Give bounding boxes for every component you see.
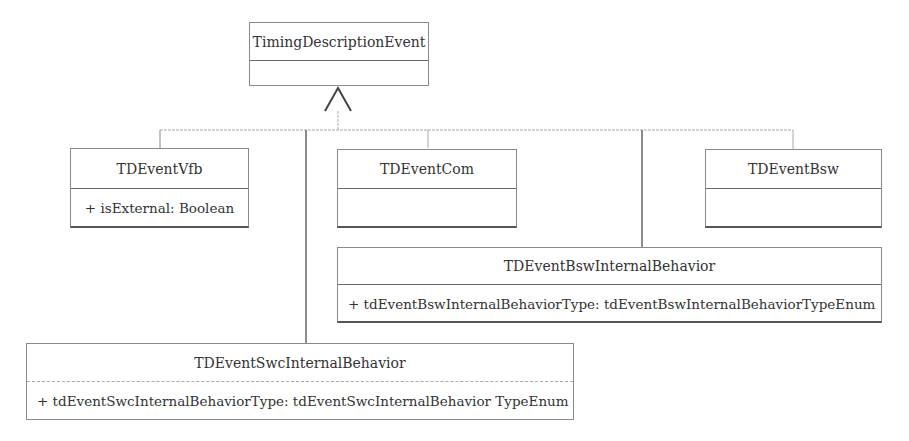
class-name: TDEventCom [338,150,516,189]
class-name: TDEventSwcInternalBehavior [27,344,573,382]
class-name: TDEventBswInternalBehavior [338,248,881,285]
generalization-arrowhead-icon [325,88,351,111]
class-name: TDEventVfb [71,149,248,189]
class-timing-description-event[interactable]: TimingDescriptionEvent [249,22,429,86]
class-attribute: + tdEventSwcInternalBehaviorType: tdEven… [27,382,573,419]
class-attributes-empty [250,61,428,85]
class-attributes-empty [338,189,516,227]
class-td-event-vfb[interactable]: TDEventVfb + isExternal: Boolean [70,148,249,228]
class-td-event-swc-internal-behavior[interactable]: TDEventSwcInternalBehavior + tdEventSwcI… [26,343,574,420]
class-attributes-empty [706,189,881,227]
uml-diagram: TimingDescriptionEvent TDEventVfb + isEx… [0,0,909,441]
class-td-event-com[interactable]: TDEventCom [337,149,517,228]
class-name: TimingDescriptionEvent [250,23,428,61]
class-attribute: + tdEventBswInternalBehaviorType: tdEven… [338,285,881,322]
class-attribute: + isExternal: Boolean [71,189,248,227]
class-td-event-bsw[interactable]: TDEventBsw [705,149,882,228]
class-td-event-bsw-internal-behavior[interactable]: TDEventBswInternalBehavior + tdEventBswI… [337,247,882,323]
class-name: TDEventBsw [706,150,881,189]
